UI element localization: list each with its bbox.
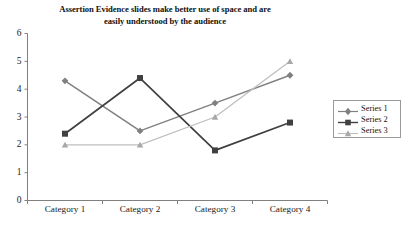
legend-item-series-2[interactable]: Series 2 — [334, 114, 400, 125]
triangle-marker-icon — [337, 125, 359, 136]
data-point-marker — [62, 131, 68, 137]
y-axis-tick-label: 0 — [6, 195, 22, 205]
legend-label-series-1: Series 1 — [359, 103, 388, 114]
legend-item-series-3[interactable]: Series 3 — [334, 125, 400, 136]
y-axis-tick-label: 5 — [6, 56, 22, 66]
y-axis-tick-label: 6 — [6, 28, 22, 38]
y-axis-tick-label: 3 — [6, 112, 22, 122]
data-point-marker — [287, 58, 293, 64]
y-axis-tick-label: 1 — [6, 167, 22, 177]
legend-item-series-1[interactable]: Series 1 — [334, 103, 400, 114]
y-axis-tick-label: 4 — [6, 84, 22, 94]
data-point-marker — [212, 147, 218, 153]
data-point-marker — [287, 72, 294, 79]
data-point-marker — [137, 75, 143, 81]
diamond-marker-icon — [337, 103, 359, 114]
x-axis-tick-label: Category 2 — [103, 203, 178, 215]
chart-legend: Series 1 Series 2 Series 3 — [333, 100, 401, 138]
legend-label-series-3: Series 3 — [359, 125, 388, 136]
square-marker-icon — [337, 114, 359, 125]
line-chart: Assertion Evidence slides make better us… — [0, 0, 415, 231]
data-point-marker — [287, 120, 293, 126]
x-axis-tick-label: Category 1 — [28, 203, 103, 215]
x-axis-tick-label: Category 4 — [253, 203, 328, 215]
x-axis-tick-label: Category 3 — [178, 203, 253, 215]
legend-label-series-2: Series 2 — [359, 114, 388, 125]
data-point-marker — [212, 100, 219, 107]
series-line-1 — [62, 72, 294, 134]
y-axis-tick-label: 2 — [6, 139, 22, 149]
